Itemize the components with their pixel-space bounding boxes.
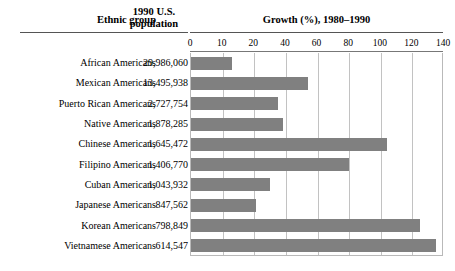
row-value-population: 798,849	[122, 220, 188, 231]
bar	[191, 239, 436, 252]
x-tick-label: 60	[304, 38, 330, 48]
bar	[191, 219, 420, 232]
x-tick-label: 40	[272, 38, 298, 48]
row-value-population: 1,878,285	[122, 118, 188, 129]
bar	[191, 158, 349, 171]
x-tick-label: 0	[177, 38, 203, 48]
column-header-population-line2: population	[120, 18, 188, 30]
row-value-population: 847,562	[122, 199, 188, 210]
column-header-growth: Growth (%), 1980–1990	[190, 14, 443, 25]
bar	[191, 97, 278, 110]
x-tick-label: 100	[367, 38, 393, 48]
bar	[191, 118, 283, 131]
x-tick-label: 20	[240, 38, 266, 48]
x-tick-label: 80	[335, 38, 361, 48]
column-header-population: 1990 U.S. population	[120, 6, 188, 29]
bar	[191, 199, 256, 212]
bar	[191, 178, 270, 191]
header-rule-right	[190, 32, 443, 33]
row-value-population: 13,495,938	[122, 77, 188, 88]
bar	[191, 138, 387, 151]
x-tick-label: 120	[398, 38, 424, 48]
plot-area	[190, 53, 443, 256]
x-tick-label: 140	[430, 38, 455, 48]
header-rule-left	[20, 32, 188, 33]
column-header-population-line1: 1990 U.S.	[120, 6, 188, 18]
row-value-population: 29,986,060	[122, 57, 188, 68]
row-value-population: 1,043,932	[122, 179, 188, 190]
bar	[191, 77, 308, 90]
x-tick-label: 10	[209, 38, 235, 48]
row-value-population: 614,547	[122, 240, 188, 251]
row-value-population: 1,406,770	[122, 159, 188, 170]
row-value-population: 2,727,754	[122, 98, 188, 109]
bar	[191, 57, 232, 70]
axis-rule	[190, 51, 443, 52]
row-value-population: 1,645,472	[122, 138, 188, 149]
